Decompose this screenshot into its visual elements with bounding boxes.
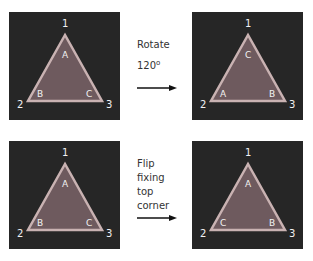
rotate-caption-line-1: Rotate (137, 38, 170, 52)
flip-arrow-icon (137, 214, 177, 222)
corner-label-left: A (220, 89, 227, 99)
flip-caption-line-2: fixing (137, 171, 169, 185)
triangle-diagram: 123ABC (9, 12, 120, 120)
vertex-label-1: 1 (245, 147, 251, 158)
triangle-diagram: 123ACB (192, 141, 303, 249)
flip-caption-line-4: corner (137, 199, 169, 213)
rotate-caption-line-2: 120o (137, 56, 170, 73)
corner-label-right: B (269, 218, 275, 228)
vertex-label-3: 3 (289, 99, 295, 110)
flip-caption: Flip fixing top corner (137, 157, 169, 213)
corner-label-top: A (245, 179, 252, 189)
corner-label-right: B (269, 89, 275, 99)
corner-label-left: B (37, 89, 43, 99)
triangle-panel-original-bottom: 123ABC (9, 141, 120, 249)
corner-label-top: A (62, 179, 69, 189)
rotate-arrow-icon (137, 84, 177, 92)
degree-symbol: o (156, 59, 160, 67)
corner-label-right: C (86, 218, 92, 228)
corner-label-right: C (86, 89, 92, 99)
triangle-panel-original-top: 123ABC (9, 12, 120, 120)
vertex-label-3: 3 (106, 228, 112, 239)
vertex-label-3: 3 (289, 228, 295, 239)
corner-label-top: C (245, 50, 251, 60)
flip-caption-line-3: top (137, 185, 169, 199)
flip-caption-line-1: Flip (137, 157, 169, 171)
corner-label-left: C (220, 218, 226, 228)
triangle-panel-rotated: 123CAB (192, 12, 303, 120)
corner-label-left: B (37, 218, 43, 228)
triangle-diagram: 123CAB (192, 12, 303, 120)
rotate-caption: Rotate 120o (137, 38, 170, 73)
triangle-diagram: 123ABC (9, 141, 120, 249)
vertex-label-1: 1 (245, 18, 251, 29)
triangle-panel-flipped: 123ACB (192, 141, 303, 249)
vertex-label-2: 2 (17, 228, 23, 239)
corner-label-top: A (62, 50, 69, 60)
vertex-label-1: 1 (62, 147, 68, 158)
vertex-label-2: 2 (200, 99, 206, 110)
vertex-label-2: 2 (17, 99, 23, 110)
vertex-label-1: 1 (62, 18, 68, 29)
vertex-label-3: 3 (106, 99, 112, 110)
vertex-label-2: 2 (200, 228, 206, 239)
